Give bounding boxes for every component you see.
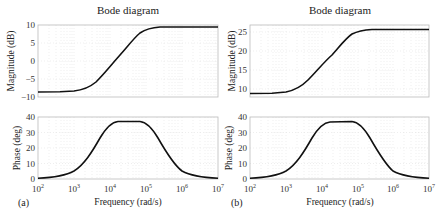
svg-text:106: 106 <box>387 183 399 194</box>
svg-text:107: 107 <box>212 183 224 194</box>
magnitude-y-ticks: 10 5 0 −5 −10 <box>21 20 36 102</box>
svg-text:103: 103 <box>68 183 80 194</box>
phase-axes-box <box>250 117 429 179</box>
grid <box>38 117 218 179</box>
grid <box>38 25 218 97</box>
svg-text:5: 5 <box>31 38 36 48</box>
svg-text:15: 15 <box>238 65 248 75</box>
svg-text:103: 103 <box>280 183 292 194</box>
svg-text:102: 102 <box>32 183 44 194</box>
panel-a: Bode diagram 10 5 0 −5 −10 Ma <box>6 4 224 209</box>
panel-a-title: Bode diagram <box>97 4 159 16</box>
panel-b-xlabel: Frequency (rad/s) <box>306 197 373 208</box>
svg-text:102: 102 <box>244 183 256 194</box>
svg-text:10: 10 <box>238 159 248 169</box>
panel-b-title: Bode diagram <box>309 4 371 16</box>
magnitude-curve <box>250 30 429 94</box>
phase-y-ticks: 40 30 20 10 0 <box>26 112 36 184</box>
panel-b: Bode diagram 25 20 15 10 Magnitude (d <box>224 4 435 209</box>
svg-text:25: 25 <box>238 27 248 37</box>
phase-ylabel: Phase (deg) <box>224 126 235 171</box>
svg-text:40: 40 <box>26 112 36 122</box>
panel-a-label: (a) <box>18 197 29 209</box>
svg-text:20: 20 <box>238 46 248 56</box>
svg-text:105: 105 <box>352 183 364 194</box>
bode-figure: Bode diagram 10 5 0 −5 −10 Ma <box>0 0 447 219</box>
svg-text:30: 30 <box>238 128 248 138</box>
panel-a-xlabel: Frequency (rad/s) <box>94 197 161 208</box>
phase-curve <box>250 122 429 179</box>
panel-a-x-ticks: 102 103 104 105 106 107 <box>32 183 224 194</box>
svg-text:0: 0 <box>31 174 36 184</box>
panel-b-phase-plot: 40 30 20 10 0 Phase (deg) <box>224 112 429 184</box>
magnitude-y-ticks: 25 20 15 10 <box>238 27 248 94</box>
phase-y-ticks: 40 30 20 10 0 <box>238 112 248 184</box>
magnitude-ylabel: Magnitude (dB) <box>227 31 238 92</box>
svg-text:107: 107 <box>423 183 435 194</box>
svg-text:104: 104 <box>316 183 328 194</box>
svg-text:106: 106 <box>176 183 188 194</box>
panel-b-x-ticks: 102 103 104 105 106 107 <box>244 183 435 194</box>
panel-b-label: (b) <box>231 197 243 209</box>
svg-text:−5: −5 <box>25 74 35 84</box>
svg-text:10: 10 <box>26 159 36 169</box>
phase-curve <box>38 122 218 179</box>
magnitude-axes-box <box>250 25 429 97</box>
svg-text:0: 0 <box>243 174 248 184</box>
svg-text:20: 20 <box>238 143 248 153</box>
svg-text:40: 40 <box>238 112 248 122</box>
panel-b-magnitude-plot: 25 20 15 10 Magnitude (dB) <box>227 25 429 97</box>
svg-text:30: 30 <box>26 128 36 138</box>
grid <box>250 117 429 179</box>
svg-text:10: 10 <box>26 20 36 30</box>
phase-ylabel: Phase (deg) <box>12 126 23 171</box>
svg-text:10: 10 <box>238 84 248 94</box>
panel-a-phase-plot: 40 30 20 10 0 Phase (deg) <box>12 112 218 184</box>
grid <box>250 25 429 97</box>
svg-text:−10: −10 <box>21 92 36 102</box>
svg-text:20: 20 <box>26 143 36 153</box>
svg-text:105: 105 <box>140 183 152 194</box>
panel-a-magnitude-plot: 10 5 0 −5 −10 Magnitude (dB) <box>6 20 218 102</box>
svg-text:104: 104 <box>104 183 116 194</box>
magnitude-ylabel: Magnitude (dB) <box>6 31 17 92</box>
svg-text:0: 0 <box>31 56 36 66</box>
